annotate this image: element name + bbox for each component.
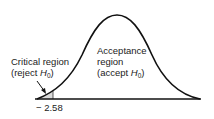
acceptance-line2: region (97, 56, 147, 67)
critical-region-line2: (reject H0) (11, 67, 69, 81)
accept-text: (accept (97, 67, 131, 78)
reject-text: (reject (11, 67, 40, 78)
critical-value-label: − 2.58 (36, 102, 63, 113)
acceptance-line3: (accept H0) (97, 67, 147, 81)
h-symbol: H (131, 67, 138, 78)
acceptance-region-label: Acceptance region (accept H0) (97, 45, 147, 81)
h-symbol: H (40, 67, 47, 78)
close-paren: ) (141, 67, 144, 78)
close-paren: ) (51, 67, 54, 78)
critical-region-line1: Critical region (11, 56, 69, 67)
acceptance-line1: Acceptance (97, 45, 147, 56)
arrow-head-icon (41, 88, 46, 94)
critical-region-label: Critical region (reject H0) (11, 56, 69, 81)
